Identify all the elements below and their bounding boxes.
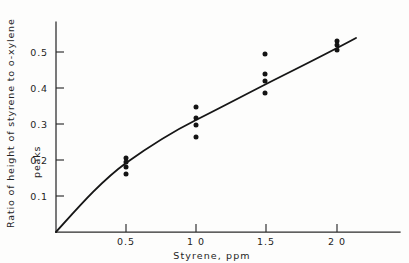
- data-point: [263, 52, 268, 57]
- x-tick-label-1.0: 1 0: [187, 236, 205, 247]
- data-point: [124, 172, 129, 177]
- calibration-scatter-plot: 0.5 0.4 0.3 0.2 0.1 0.5 1 0 1.5 2 0 Styr…: [0, 0, 409, 263]
- x-axis-title: Styrene, ppm: [173, 250, 250, 261]
- x-axis-ticks: [126, 224, 337, 232]
- y-axis-title-line-1: Ratio of height of styrene to o-xylene: [5, 18, 16, 228]
- data-point: [263, 79, 268, 84]
- x-tick-label-2.0: 2 0: [328, 236, 346, 247]
- data-point: [194, 105, 199, 110]
- data-points-group: [124, 39, 340, 177]
- data-point: [194, 116, 199, 121]
- x-tick-label-1.5: 1.5: [257, 236, 275, 247]
- chart-figure: 0.5 0.4 0.3 0.2 0.1 0.5 1 0 1.5 2 0 Styr…: [0, 0, 409, 263]
- data-point: [263, 72, 268, 77]
- data-point: [263, 91, 268, 96]
- x-tick-label-0.5: 0.5: [117, 236, 135, 247]
- data-point: [194, 123, 199, 128]
- fitted-calibration-curve: [56, 38, 356, 232]
- y-tick-label-0.3: 0.3: [30, 119, 48, 130]
- x-tick-labels: 0.5 1 0 1.5 2 0: [117, 236, 346, 247]
- data-point: [335, 48, 340, 53]
- data-point: [124, 160, 129, 165]
- y-axis-title-line-2: peaks: [31, 146, 42, 178]
- y-tick-label-0.1: 0.1: [30, 191, 48, 202]
- data-point: [335, 43, 340, 48]
- y-tick-label-0.5: 0.5: [30, 47, 48, 58]
- y-axis-ticks: [56, 52, 64, 196]
- data-point: [124, 165, 129, 170]
- data-point: [194, 135, 199, 140]
- y-tick-label-0.4: 0.4: [30, 83, 48, 94]
